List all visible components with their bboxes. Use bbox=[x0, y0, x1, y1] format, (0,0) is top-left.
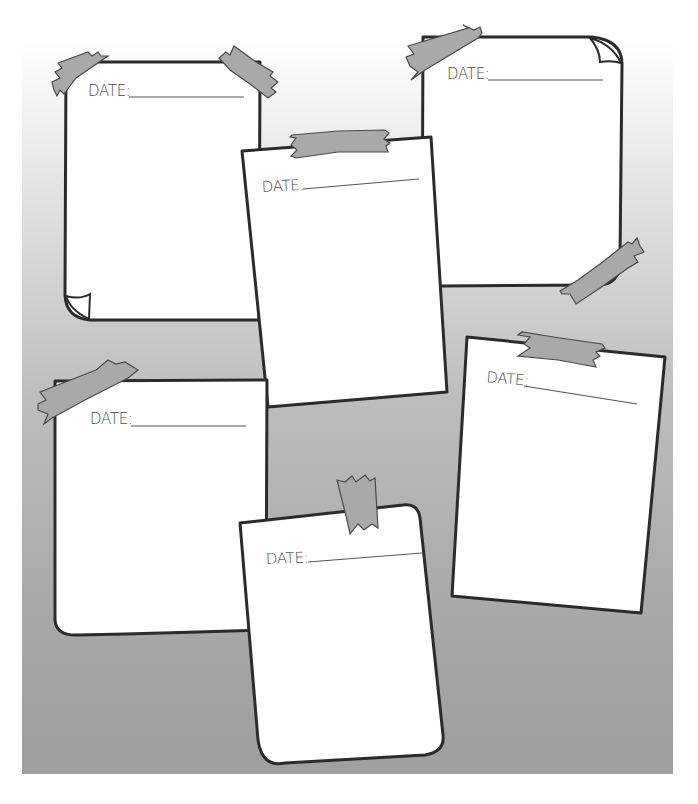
date-label: DATE: bbox=[88, 82, 131, 100]
note-bottom-left[interactable]: DATE: bbox=[38, 360, 267, 635]
date-label: DATE: bbox=[486, 368, 530, 390]
date-label: DATE: bbox=[447, 65, 490, 83]
date-label: DATE: bbox=[90, 410, 133, 428]
note-middle-right[interactable]: DATE: bbox=[452, 332, 665, 613]
date-label: DATE: bbox=[261, 176, 304, 196]
notes-scene: DATE: DATE: DATE: DATE: DATE: DATE: bbox=[0, 0, 698, 804]
note-top-center[interactable]: DATE: bbox=[242, 130, 447, 407]
date-label: DATE: bbox=[266, 549, 309, 568]
note-bottom-center[interactable]: DATE: bbox=[240, 475, 443, 764]
note-top-right[interactable]: DATE: bbox=[406, 25, 644, 304]
